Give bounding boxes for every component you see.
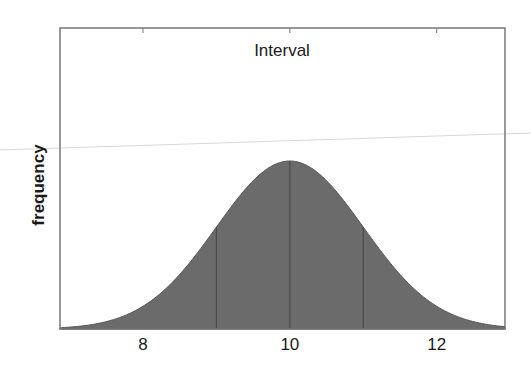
x-axis-tick-labels: 81012 — [138, 335, 446, 354]
normal-distribution-chart: Interval 81012 frequency — [0, 0, 531, 377]
plot-area — [60, 161, 505, 329]
distribution-fill — [60, 161, 505, 329]
scan-artifact-line — [0, 133, 531, 150]
chart-title: Interval — [254, 41, 310, 60]
x-tick-label-10: 10 — [280, 335, 299, 354]
x-tick-label-12: 12 — [427, 335, 446, 354]
y-axis-label: frequency — [29, 144, 48, 226]
x-tick-label-8: 8 — [138, 335, 147, 354]
